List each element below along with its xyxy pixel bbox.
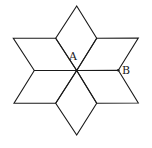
point-B-dot (117, 69, 120, 72)
label-B: B (122, 64, 130, 77)
point-A-dot (75, 69, 78, 72)
rhombus-lower-left (14, 71, 77, 104)
star-diagram: A B (0, 0, 152, 148)
rhombus-bottom (56, 71, 97, 136)
label-A: A (68, 50, 78, 63)
rhombus-upper-left (13, 38, 76, 70)
